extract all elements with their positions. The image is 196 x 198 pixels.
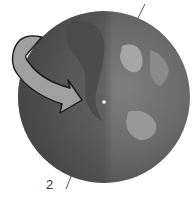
globe-diagram [0,0,196,198]
earth-globe [18,10,190,185]
center-point [102,100,106,104]
axis-label-2: 2 [46,177,53,192]
axis-line-bottom [66,174,72,189]
axis-line-top [137,4,145,20]
